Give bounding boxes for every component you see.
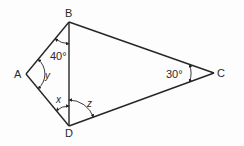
vertex-label-D: D	[65, 127, 73, 139]
angle-arc-D-x	[56, 106, 69, 111]
vertex-label-B: B	[65, 7, 72, 19]
angle-label-z: z	[86, 98, 92, 109]
vertex-label-C: C	[217, 67, 225, 79]
angle-arc-B-40	[55, 39, 69, 44]
quadrilateral-diagram: B A C D 40° y x z 30°	[0, 0, 244, 146]
vertex-label-A: A	[14, 68, 22, 80]
edge-DA	[26, 74, 69, 126]
diagram-canvas: B A C D 40° y x z 30°	[0, 0, 244, 146]
angle-label-40: 40°	[50, 50, 67, 62]
edge-BC	[69, 22, 214, 73]
edge-AB	[26, 22, 69, 74]
angle-arc-C-30	[190, 64, 192, 82]
angle-label-x: x	[55, 94, 62, 105]
angle-label-y: y	[44, 70, 51, 81]
angle-arc-A-y	[38, 59, 45, 88]
angle-label-30: 30°	[166, 68, 183, 80]
